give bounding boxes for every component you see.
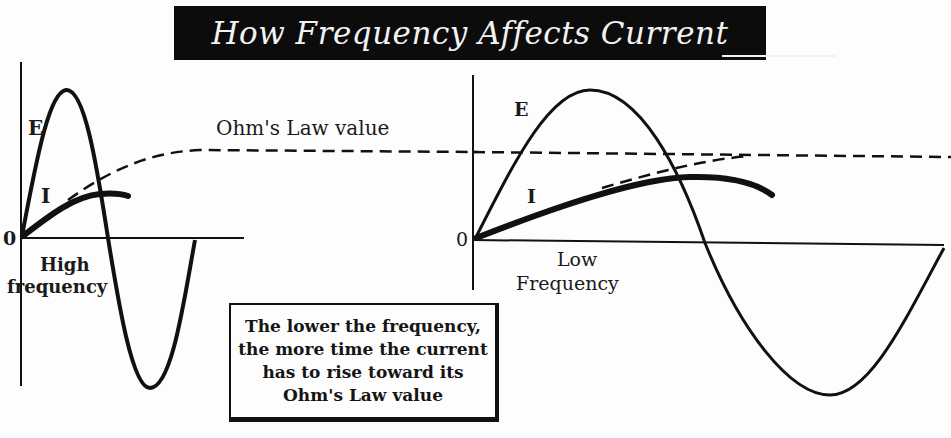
left-ohms-law-dashed xyxy=(68,150,477,200)
left-caption-high: High xyxy=(40,254,90,275)
right-caption-frequency: Frequency xyxy=(516,272,619,294)
right-ohms-law-dashed xyxy=(473,152,951,157)
explanation-box: The lower the frequency, the more time t… xyxy=(229,303,499,422)
right-x-axis xyxy=(474,240,944,245)
note-line-1: The lower the frequency, xyxy=(245,315,481,338)
right-current-curve xyxy=(476,177,772,238)
diagram-canvas: How Frequency Affects Current xyxy=(0,0,951,438)
ohms-law-label: Ohm's Law value xyxy=(216,116,389,140)
note-line-4: Ohm's Law value xyxy=(283,384,443,407)
left-current-curve xyxy=(23,194,128,236)
left-i-label: I xyxy=(41,184,50,208)
right-i-label: I xyxy=(527,185,536,207)
right-e-label: E xyxy=(514,98,528,120)
low-frequency-panel xyxy=(473,75,951,395)
note-line-3: has to rise toward its xyxy=(262,361,463,384)
left-zero-label: 0 xyxy=(3,227,16,249)
left-e-label: E xyxy=(28,116,43,140)
right-caption-low: Low xyxy=(557,248,597,270)
right-zero-label: 0 xyxy=(456,228,468,250)
note-line-2: the more time the current xyxy=(238,338,488,361)
left-caption-frequency: frequency xyxy=(7,276,107,297)
